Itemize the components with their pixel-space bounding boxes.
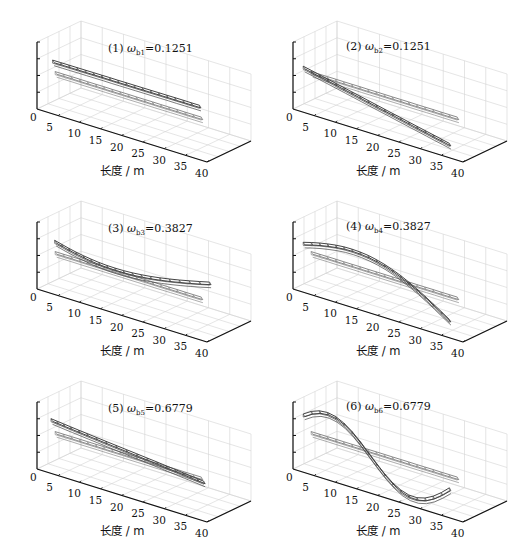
- panel-index: (5): [108, 402, 124, 415]
- x-tick-label: 40: [451, 347, 464, 359]
- frequency-value: =0.3827: [383, 220, 431, 233]
- plot-3d-axes: [256, 360, 512, 540]
- x-tick-label: 35: [174, 160, 187, 172]
- x-tick-label: 35: [430, 340, 443, 352]
- x-tick-label: 30: [409, 334, 422, 346]
- x-axis-label: 长度 / m: [100, 162, 144, 178]
- x-tick-label: 40: [195, 347, 208, 359]
- x-tick-label: 0: [30, 291, 37, 303]
- x-tick-label: 20: [110, 501, 123, 513]
- panel-index: (4): [346, 220, 362, 233]
- x-tick-label: 20: [110, 141, 123, 153]
- mode-panel-6: (6) ωb6=0.67790510152025303540长度 / m: [256, 360, 512, 540]
- x-tick-label: 5: [46, 481, 53, 493]
- x-tick-label: 0: [286, 111, 293, 123]
- x-axis-label: 长度 / m: [100, 522, 144, 538]
- omega-subscript: b1: [136, 49, 145, 57]
- x-tick-label: 10: [68, 307, 81, 319]
- x-tick-label: 10: [68, 487, 81, 499]
- panel-title: (1) ωb1=0.1251: [108, 42, 193, 57]
- x-tick-label: 5: [302, 481, 309, 493]
- x-tick-label: 25: [131, 147, 144, 159]
- omega-subscript: b4: [374, 227, 383, 235]
- x-tick-label: 40: [195, 167, 208, 179]
- x-tick-label: 35: [430, 520, 443, 532]
- x-tick-label: 20: [366, 501, 379, 513]
- x-tick-label: 0: [30, 471, 37, 483]
- x-tick-label: 25: [387, 507, 400, 519]
- frequency-value: =0.3827: [145, 222, 193, 235]
- x-tick-label: 30: [409, 154, 422, 166]
- x-axis-label: 长度 / m: [356, 162, 400, 178]
- x-tick-label: 35: [174, 520, 187, 532]
- x-tick-label: 15: [89, 314, 102, 326]
- mode-panel-2: (2) ωb2=0.12510510152025303540长度 / m: [256, 0, 512, 180]
- frequency-value: =0.6779: [383, 400, 431, 413]
- x-tick-label: 25: [131, 507, 144, 519]
- x-tick-label: 10: [324, 307, 337, 319]
- x-tick-label: 40: [195, 527, 208, 539]
- x-tick-label: 30: [153, 514, 166, 526]
- x-tick-label: 30: [409, 514, 422, 526]
- panel-title: (2) ωb2=0.1251: [346, 40, 431, 55]
- x-axis-label: 长度 / m: [356, 522, 400, 538]
- plot-3d-axes: [256, 180, 512, 360]
- x-tick-label: 15: [89, 494, 102, 506]
- x-tick-label: 5: [302, 121, 309, 133]
- x-axis-label: 长度 / m: [100, 342, 144, 358]
- x-tick-label: 25: [387, 327, 400, 339]
- mode-panel-1: (1) ωb1=0.12510510152025303540长度 / m: [0, 0, 256, 180]
- panel-title: (4) ωb4=0.3827: [346, 220, 431, 235]
- omega-symbol: ω: [127, 42, 136, 55]
- x-tick-label: 0: [286, 291, 293, 303]
- omega-symbol: ω: [365, 220, 374, 233]
- x-tick-label: 5: [46, 121, 53, 133]
- frequency-value: =0.6779: [145, 402, 193, 415]
- x-tick-label: 5: [302, 301, 309, 313]
- panel-index: (3): [108, 222, 124, 235]
- x-tick-label: 40: [451, 527, 464, 539]
- x-tick-label: 10: [68, 127, 81, 139]
- x-tick-label: 0: [30, 111, 37, 123]
- x-tick-label: 35: [430, 160, 443, 172]
- panel-title: (5) ωb5=0.6779: [108, 402, 193, 417]
- x-tick-label: 15: [345, 494, 358, 506]
- omega-subscript: b3: [136, 229, 145, 237]
- x-tick-label: 15: [345, 134, 358, 146]
- omega-subscript: b2: [374, 47, 383, 55]
- x-tick-label: 10: [324, 487, 337, 499]
- x-tick-label: 10: [324, 127, 337, 139]
- x-tick-label: 0: [286, 471, 293, 483]
- omega-subscript: b6: [374, 407, 383, 415]
- x-tick-label: 20: [110, 321, 123, 333]
- panel-title: (3) ωb3=0.3827: [108, 222, 193, 237]
- panel-title: (6) ωb6=0.6779: [346, 400, 431, 415]
- omega-symbol: ω: [365, 400, 374, 413]
- x-tick-label: 15: [345, 314, 358, 326]
- x-axis-label: 长度 / m: [356, 342, 400, 358]
- x-tick-label: 5: [46, 301, 53, 313]
- omega-symbol: ω: [365, 40, 374, 53]
- x-tick-label: 35: [174, 340, 187, 352]
- x-tick-label: 15: [89, 134, 102, 146]
- mode-panel-4: (4) ωb4=0.38270510152025303540长度 / m: [256, 180, 512, 360]
- frequency-value: =0.1251: [145, 42, 193, 55]
- x-tick-label: 20: [366, 141, 379, 153]
- omega-subscript: b5: [136, 409, 145, 417]
- panel-index: (1): [108, 42, 124, 55]
- x-tick-label: 30: [153, 334, 166, 346]
- panel-index: (2): [346, 40, 362, 53]
- panel-index: (6): [346, 400, 362, 413]
- x-tick-label: 40: [451, 167, 464, 179]
- plot-3d-axes: [0, 360, 256, 540]
- x-tick-label: 30: [153, 154, 166, 166]
- plot-3d-axes: [0, 180, 256, 360]
- x-tick-label: 20: [366, 321, 379, 333]
- x-tick-label: 25: [387, 147, 400, 159]
- plot-3d-axes: [256, 0, 512, 180]
- frequency-value: =0.1251: [383, 40, 431, 53]
- x-tick-label: 25: [131, 327, 144, 339]
- omega-symbol: ω: [127, 402, 136, 415]
- mode-panel-5: (5) ωb5=0.67790510152025303540长度 / m: [0, 360, 256, 540]
- plot-3d-axes: [0, 0, 256, 180]
